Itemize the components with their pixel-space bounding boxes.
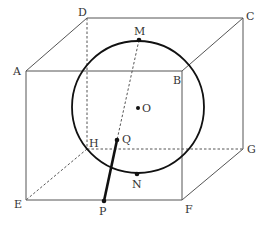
label-A: A: [12, 65, 22, 78]
point-M: [137, 38, 142, 43]
edge-FG: [182, 149, 243, 200]
edge-AD: [26, 18, 87, 71]
label-E: E: [14, 198, 22, 211]
hidden-edge-HE: [26, 149, 87, 200]
label-F: F: [185, 203, 193, 216]
label-H: H: [89, 137, 99, 150]
label-G: G: [247, 143, 256, 156]
hidden-segment-MQ: [117, 40, 139, 140]
point-P: [102, 199, 107, 204]
label-O: O: [142, 102, 151, 115]
point-O: [136, 106, 140, 110]
label-Q: Q: [122, 133, 131, 146]
label-C: C: [246, 10, 254, 23]
label-D: D: [78, 6, 87, 19]
label-N: N: [132, 178, 142, 191]
label-B: B: [173, 74, 181, 87]
label-M: M: [134, 25, 145, 38]
point-N: [135, 172, 140, 177]
label-P: P: [99, 205, 107, 218]
cube-sphere-diagram: A B C D E F G H M N O Q P: [0, 0, 265, 227]
point-Q: [115, 138, 120, 143]
edge-BC: [182, 18, 243, 71]
